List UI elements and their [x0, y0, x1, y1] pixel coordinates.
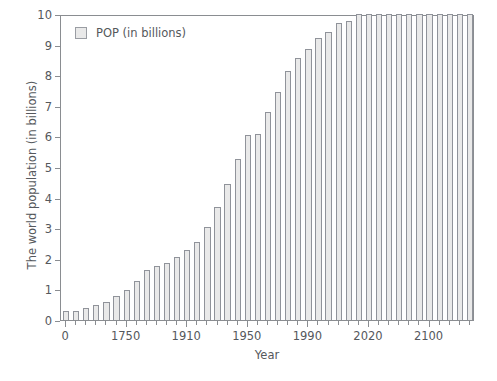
bar	[93, 305, 99, 320]
bar	[437, 14, 443, 320]
y-tick-label: 0	[45, 314, 52, 328]
bar	[83, 308, 89, 320]
bar	[386, 14, 392, 320]
y-axis: 012345678910 The world population (in bi…	[0, 0, 60, 381]
x-axis-title: Year	[60, 348, 474, 362]
x-tick-label: 2020	[353, 329, 382, 343]
bar	[235, 159, 241, 320]
y-tick-label: 9	[45, 39, 52, 53]
bar	[204, 227, 210, 320]
x-tick	[186, 321, 187, 327]
x-tick	[156, 321, 157, 325]
x-tick	[439, 321, 440, 325]
x-tick	[227, 321, 228, 325]
bar	[467, 14, 473, 320]
x-tick	[459, 321, 460, 325]
bar	[214, 207, 220, 320]
bar	[346, 21, 352, 320]
y-tick-label: 3	[45, 222, 52, 236]
y-tick-label: 4	[45, 192, 52, 206]
bar	[305, 49, 311, 320]
chart-root: 012345678910 The world population (in bi…	[0, 0, 497, 381]
x-tick	[65, 321, 66, 327]
bar	[275, 92, 281, 320]
bar	[406, 14, 412, 320]
bar	[396, 14, 402, 320]
x-tick-label: 1950	[232, 329, 261, 343]
x-tick	[247, 321, 248, 327]
x-tick	[166, 321, 167, 325]
bar	[144, 270, 150, 320]
plot-area: POP (in billions)	[60, 15, 474, 321]
x-tick	[398, 321, 399, 325]
x-tick	[95, 321, 96, 325]
y-tick-label: 8	[45, 69, 52, 83]
x-tick	[257, 321, 258, 325]
x-tick-label: 1750	[111, 329, 140, 343]
bar	[426, 14, 432, 320]
bar	[265, 112, 271, 320]
x-tick	[418, 321, 419, 325]
y-axis-title: The world population (in billions)	[25, 65, 39, 285]
x-tick	[358, 321, 359, 325]
bar	[245, 135, 251, 320]
bar	[255, 134, 261, 320]
bar	[113, 296, 119, 320]
bar	[224, 184, 230, 320]
x-tick	[408, 321, 409, 325]
x-tick	[85, 321, 86, 325]
x-tick	[388, 321, 389, 325]
bar	[154, 266, 160, 320]
legend-swatch-pop	[75, 27, 87, 39]
x-tick	[368, 321, 369, 327]
bar	[184, 250, 190, 320]
x-tick	[126, 321, 127, 327]
x-tick	[469, 321, 470, 325]
x-axis: 0175019101950199020202100 Year	[60, 321, 474, 381]
bar	[356, 14, 362, 320]
bar	[174, 257, 180, 320]
y-tick-label: 7	[45, 100, 52, 114]
x-tick	[136, 321, 137, 325]
x-tick	[105, 321, 106, 325]
x-tick	[317, 321, 318, 325]
x-tick	[297, 321, 298, 325]
x-tick	[338, 321, 339, 325]
bar	[295, 58, 301, 320]
x-tick	[146, 321, 147, 325]
x-tick	[206, 321, 207, 325]
bar-group	[61, 16, 473, 320]
x-tick	[277, 321, 278, 325]
bar	[134, 281, 140, 320]
x-tick	[196, 321, 197, 325]
bar	[325, 32, 331, 320]
y-tick-label: 2	[45, 253, 52, 267]
x-tick	[237, 321, 238, 325]
y-tick-label: 1	[45, 283, 52, 297]
bar	[194, 242, 200, 320]
bar	[164, 263, 170, 320]
y-tick-label: 10	[37, 8, 52, 22]
y-tick-label: 5	[45, 161, 52, 175]
legend-label-pop: POP (in billions)	[96, 26, 186, 40]
x-tick	[378, 321, 379, 325]
x-tick	[429, 321, 430, 327]
x-tick	[75, 321, 76, 325]
x-tick	[348, 321, 349, 325]
x-tick	[449, 321, 450, 325]
bar	[73, 311, 79, 320]
x-tick	[287, 321, 288, 325]
bar	[457, 14, 463, 320]
x-tick	[116, 321, 117, 325]
x-tick	[328, 321, 329, 325]
x-tick	[307, 321, 308, 327]
bar	[447, 14, 453, 320]
x-tick-label: 0	[61, 329, 68, 343]
y-tick-label: 6	[45, 130, 52, 144]
x-tick-label: 1910	[172, 329, 201, 343]
bar	[124, 290, 130, 320]
bar	[285, 71, 291, 320]
bar	[315, 38, 321, 320]
x-tick	[267, 321, 268, 325]
x-tick	[217, 321, 218, 325]
